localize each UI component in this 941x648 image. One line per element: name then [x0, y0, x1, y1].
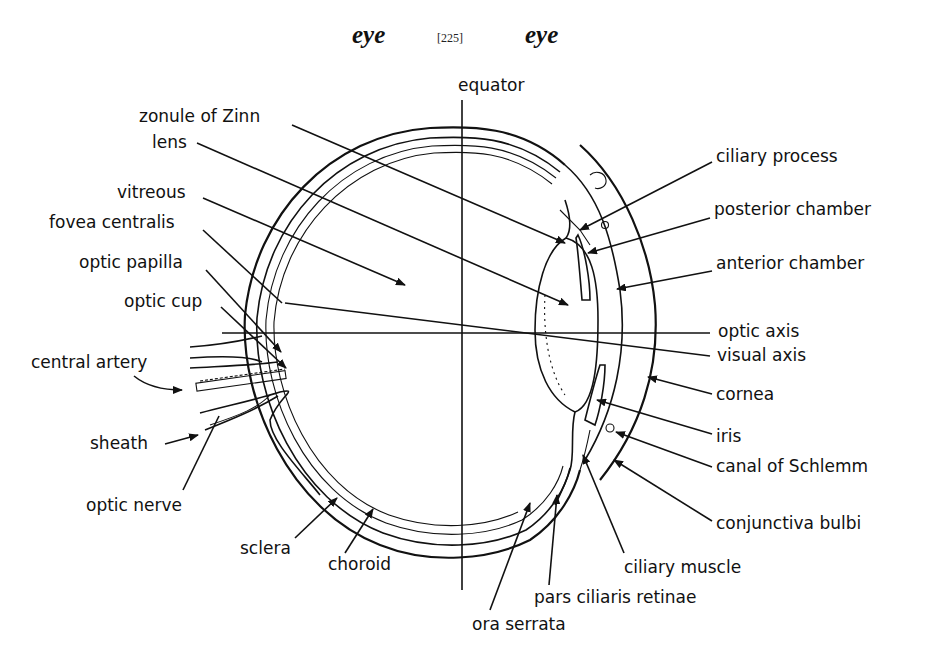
header-right-word: eye [525, 21, 558, 48]
label-iris: iris [716, 426, 741, 446]
label-cornea: cornea [716, 384, 774, 404]
label-fovea-centralis: fovea centralis [49, 212, 175, 232]
iris-ciliary-upper [560, 200, 590, 300]
label-equator: equator [458, 75, 525, 95]
label-ciliary-process: ciliary process [716, 146, 838, 166]
label-optic-cup: optic cup [124, 291, 202, 311]
page-number: [225] [437, 31, 463, 45]
label-conjunctiva-bulbi: conjunctiva bulbi [716, 513, 861, 533]
label-visual-axis: visual axis [717, 345, 806, 365]
header-left-word: eye [352, 21, 385, 48]
label-lens: lens [152, 132, 187, 152]
label-choroid: choroid [328, 554, 391, 574]
eyeball-wall [245, 127, 580, 557]
optic-nerve [190, 336, 320, 495]
cornea [565, 145, 656, 480]
label-optic-nerve: optic nerve [86, 495, 182, 515]
label-vitreous: vitreous [117, 182, 186, 202]
label-canal-of-schlemm: canal of Schlemm [716, 456, 868, 476]
visual-axis-line [285, 303, 710, 356]
label-ora-serrata: ora serrata [472, 614, 566, 634]
label-ciliary-muscle: ciliary muscle [624, 557, 741, 577]
label-pars-ciliaris-retinae: pars ciliaris retinae [534, 587, 696, 607]
label-zonule-of-zinn: zonule of Zinn [139, 106, 260, 126]
iris-ciliary-lower [555, 365, 614, 505]
label-optic-axis: optic axis [718, 321, 800, 341]
label-central-artery: central artery [31, 352, 147, 372]
label-sheath: sheath [90, 433, 148, 453]
label-posterior-chamber: posterior chamber [714, 199, 871, 219]
label-anterior-chamber: anterior chamber [716, 253, 864, 273]
lens [535, 238, 598, 412]
label-sclera: sclera [240, 538, 291, 558]
label-optic-papilla: optic papilla [79, 252, 183, 272]
eye-anatomy-diagram: eye [225] eye equator [0, 0, 941, 648]
